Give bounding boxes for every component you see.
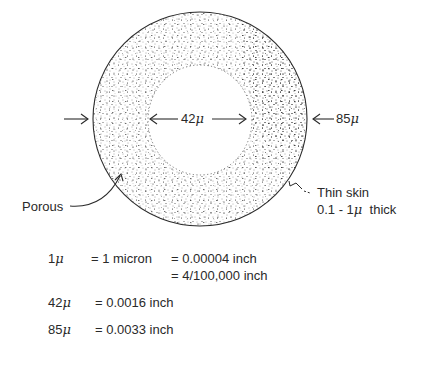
outer-diameter-label: 85μ: [336, 111, 359, 126]
conversion-row-42-lhs: 42μ: [48, 295, 71, 310]
conversion-row-1-micron: 1μ: [48, 251, 64, 266]
conversion-row-85-lhs: 85μ: [48, 322, 71, 337]
porous-label: Porous: [22, 199, 63, 214]
conversion-row-1-mid: = 1 micron: [91, 251, 152, 266]
inner-diameter-label: 42μ: [181, 111, 204, 126]
conversion-row-42-rhs: = 0.0016 inch: [95, 295, 173, 310]
conversion-row-85-rhs: = 0.0033 inch: [95, 322, 173, 337]
thin-skin-label: Thin skin: [317, 185, 369, 200]
thin-skin-thickness-label: 0.1 - 1μ thick: [317, 202, 396, 217]
conversion-row-1-rhs: = 0.00004 inch: [171, 251, 257, 266]
conversion-row-2-rhs: = 4/100,000 inch: [171, 268, 268, 283]
hollow-fiber-diagram: 42μ 85μ Porous Thin skin 0.1 - 1μ thick …: [0, 0, 424, 380]
